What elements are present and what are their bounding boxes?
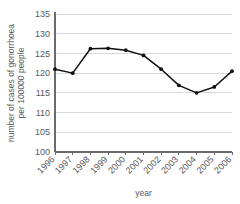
y-axis-tick-label: 135	[35, 9, 50, 19]
y-axis-tick-labels: 100105110115120125130135	[35, 9, 50, 157]
data-point-marker	[142, 54, 146, 58]
x-axis-tick-label: 2006	[212, 154, 233, 175]
x-axis-tick-label: 1997	[53, 154, 74, 175]
y-axis-tick-label: 115	[36, 88, 50, 98]
x-axis-tick-labels: 1996199719981999200020012002200320042005…	[35, 154, 233, 175]
y-axis-title: number of cases of gonorrhoea per 100000…	[6, 24, 26, 142]
x-axis-tick-label: 1999	[88, 154, 109, 175]
x-axis-tick-label: 1996	[35, 154, 56, 175]
data-point-marker	[71, 71, 75, 75]
gonorrhoea-line-chart: 100105110115120125130135 199619971998199…	[0, 0, 240, 204]
data-point-marker	[230, 69, 234, 73]
chart-canvas: 100105110115120125130135 199619971998199…	[0, 0, 240, 204]
y-axis-tick-label: 105	[35, 127, 50, 137]
data-point-marker	[177, 83, 181, 87]
x-axis-tick-label: 2004	[177, 154, 198, 175]
gridline-group	[55, 14, 232, 132]
y-axis-tick-label: 120	[35, 68, 50, 78]
data-point-marker	[212, 85, 216, 89]
data-point-marker	[89, 47, 93, 51]
x-axis-tick-label: 2000	[106, 154, 127, 175]
data-point-marker	[159, 67, 163, 71]
data-point-marker	[53, 67, 57, 71]
x-axis-tick-label: 2005	[194, 154, 215, 175]
y-axis-title-line-1: number of cases of gonorrhoea	[6, 24, 16, 142]
y-axis-title-line-2: per 100000 people	[16, 47, 26, 118]
x-axis-tick-label: 2003	[159, 154, 180, 175]
x-axis-tick-label: 1998	[71, 154, 92, 175]
data-point-marker	[106, 46, 110, 50]
data-point-marker	[124, 48, 128, 52]
x-axis-tick-label: 2002	[141, 154, 162, 175]
y-axis-tick-label: 125	[35, 49, 50, 59]
y-axis-tick-label: 130	[35, 29, 50, 39]
data-point-marker	[195, 91, 199, 95]
x-axis-tick-label: 2001	[124, 154, 145, 175]
x-axis-title: year	[135, 188, 152, 198]
y-axis-tick-label: 110	[36, 108, 50, 118]
